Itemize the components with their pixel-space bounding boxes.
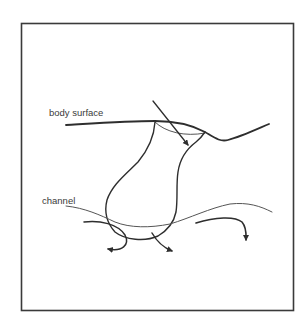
channel-line (66, 203, 272, 226)
flow-arrow-right (196, 218, 246, 240)
body-surface-line (66, 121, 269, 141)
diagram: body surface channel (0, 0, 308, 326)
frame (22, 24, 294, 311)
body-surface-label: body surface (49, 108, 103, 118)
sensory-pit (106, 122, 205, 239)
flow-arrow-middle (152, 233, 172, 251)
diagram-svg (0, 0, 308, 326)
channel-label: channel (42, 196, 75, 206)
